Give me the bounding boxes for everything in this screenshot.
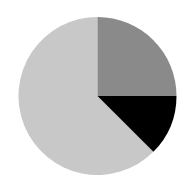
pie-slices-group: [18, 17, 176, 175]
pie-chart-figure: [0, 0, 195, 190]
pie-chart-canvas: [0, 0, 195, 190]
